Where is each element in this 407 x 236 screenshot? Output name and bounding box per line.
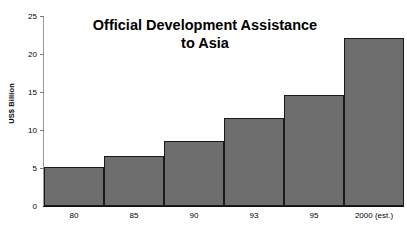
y-axis-tick-label: 25: [18, 12, 40, 21]
bar-chart: US$ Billion 0510152025 80859093952000 (e…: [0, 0, 407, 236]
y-axis-tick-mark: [40, 168, 44, 169]
bar: [104, 156, 164, 206]
bar: [224, 118, 284, 206]
chart-title-line-1: Official Development Assistance: [93, 17, 317, 33]
x-axis-tick-label: 80: [70, 211, 79, 220]
x-axis-tick-label: 90: [190, 211, 199, 220]
x-axis-tick-label: 95: [310, 211, 319, 220]
y-axis-tick-label: 0: [18, 202, 40, 211]
x-axis-tick-labels: 80859093952000 (est.): [44, 209, 404, 229]
x-axis-tick-label: 2000 (est.): [355, 211, 393, 220]
x-axis-tick-label: 93: [250, 211, 259, 220]
chart-title-line-2: to Asia: [60, 34, 350, 52]
y-axis-tick-mark: [40, 54, 44, 55]
x-axis-line: [43, 206, 404, 207]
chart-title: Official Development Assistance to Asia: [60, 16, 350, 52]
bar: [44, 167, 104, 206]
y-axis-tick-label: 20: [18, 50, 40, 59]
x-axis-tick-label: 85: [130, 211, 139, 220]
y-axis-tick-label: 5: [18, 164, 40, 173]
y-axis-tick-label: 10: [18, 126, 40, 135]
y-axis-title-label: US$ Billion: [7, 83, 16, 124]
y-axis-tick-mark: [40, 92, 44, 93]
bar: [164, 141, 224, 206]
y-axis-tick-labels: 0510152025: [18, 0, 40, 236]
y-axis-tick-mark: [40, 16, 44, 17]
y-axis-tick-mark: [40, 130, 44, 131]
y-axis-tick-label: 15: [18, 88, 40, 97]
bar: [284, 95, 344, 206]
bar: [344, 38, 404, 206]
